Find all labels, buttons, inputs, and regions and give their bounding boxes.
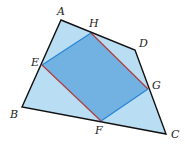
label-h: H (88, 17, 99, 30)
label-b: B (9, 108, 18, 121)
quadrilateral-diagram: A B C D E F G H (0, 0, 185, 146)
label-f: F (94, 124, 103, 137)
label-d: D (138, 37, 148, 50)
label-a: A (56, 5, 65, 18)
label-c: C (171, 128, 180, 141)
label-e: E (30, 56, 39, 69)
label-g: G (152, 79, 161, 92)
